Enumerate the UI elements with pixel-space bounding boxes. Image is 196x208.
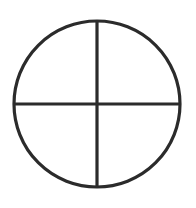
crosshair-reticle-icon: Circle divided into four quadrants by a … bbox=[0, 0, 196, 208]
icon-canvas: Circle divided into four quadrants by a … bbox=[0, 0, 196, 208]
